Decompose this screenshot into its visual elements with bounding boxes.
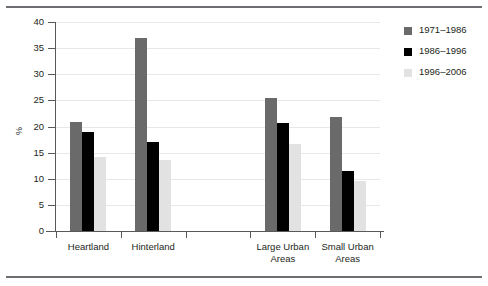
bar <box>277 123 289 231</box>
gridline <box>56 48 380 49</box>
y-axis-tick-mark <box>48 74 55 75</box>
legend-swatch-icon <box>404 69 412 77</box>
x-axis-category-label: Large UrbanAreas <box>250 241 315 264</box>
bar <box>354 181 366 231</box>
bar <box>330 117 342 231</box>
x-axis-tick-mark <box>186 232 187 238</box>
plot-area <box>56 22 380 231</box>
bar <box>82 132 94 231</box>
bar <box>70 122 82 231</box>
bar <box>135 38 147 231</box>
bar-chart: % 0510152025303540 HeartlandHinterlandLa… <box>0 0 488 286</box>
x-axis-tick-mark <box>315 232 316 238</box>
y-axis-tick-label: 25 <box>20 95 44 105</box>
x-axis-category-label: Heartland <box>56 241 121 253</box>
x-axis-line <box>46 231 384 232</box>
y-axis-tick-label: 5 <box>20 200 44 210</box>
y-axis-tick-mark <box>48 153 55 154</box>
x-axis-category-label-line: Heartland <box>56 241 121 253</box>
y-axis-tick-mark <box>48 48 55 49</box>
x-axis-category-label-line: Areas <box>315 253 380 265</box>
x-axis-tick-mark <box>56 232 57 238</box>
x-axis-category-label-line: Large Urban <box>250 241 315 253</box>
legend-swatch-icon <box>404 27 412 35</box>
y-axis-tick-mark <box>48 127 55 128</box>
y-axis-tick-mark <box>48 179 55 180</box>
x-axis-tick-mark <box>121 232 122 238</box>
bar <box>265 98 277 231</box>
x-axis-category-label-line: Areas <box>250 253 315 265</box>
x-axis-category-label-line: Small Urban <box>315 241 380 253</box>
x-axis-category-label: Small UrbanAreas <box>315 241 380 264</box>
x-axis-category-label: Hinterland <box>121 241 186 253</box>
y-axis-tick-mark <box>48 205 55 206</box>
bar <box>289 144 301 231</box>
y-axis-tick-label: 10 <box>20 174 44 184</box>
y-axis-tick-label: 30 <box>20 69 44 79</box>
y-axis-tick-label: 0 <box>20 226 44 236</box>
x-axis-tick-mark <box>250 232 251 238</box>
legend-item-label: 1986–1996 <box>419 45 467 56</box>
bar <box>147 142 159 231</box>
bar <box>94 157 106 231</box>
x-axis-category-label-line: Hinterland <box>121 241 186 253</box>
legend-item-label: 1996–2006 <box>419 66 467 77</box>
y-axis-tick-mark <box>48 22 55 23</box>
legend-item-label: 1971–1986 <box>419 24 467 35</box>
y-axis-tick-label: 15 <box>20 148 44 158</box>
y-axis-tick-label: 20 <box>20 122 44 132</box>
bar <box>159 160 171 231</box>
gridline <box>56 22 380 23</box>
y-axis-tick-label: 40 <box>20 17 44 27</box>
bar <box>342 171 354 231</box>
x-axis-tick-mark <box>380 232 381 238</box>
y-axis-tick-label: 35 <box>20 43 44 53</box>
y-axis-tick-mark <box>48 100 55 101</box>
gridline <box>56 74 380 75</box>
gridline <box>56 100 380 101</box>
legend-swatch-icon <box>404 48 412 56</box>
